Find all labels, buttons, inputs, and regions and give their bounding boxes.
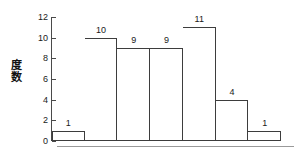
y-axis-tick-label: 12	[8, 13, 48, 22]
bar	[117, 48, 150, 141]
bar	[85, 38, 118, 141]
y-axis-tick-label: 8	[8, 54, 48, 63]
y-axis-tick-label: 2	[8, 116, 48, 125]
y-axis-tick-label: 10	[8, 34, 48, 43]
bar-cell: 10	[85, 17, 118, 141]
bar-value-label: 1	[248, 119, 281, 128]
y-axis-tick-label: 0	[8, 137, 48, 146]
histogram-chart: 度 数 024681012 110991141	[0, 0, 299, 151]
plot-area: 110991141	[52, 17, 281, 141]
bar-cell: 1	[52, 17, 85, 141]
y-axis-tick-label: 6	[8, 75, 48, 84]
bar-cell: 11	[183, 17, 216, 141]
bar-value-label: 9	[117, 36, 150, 45]
x-axis-baseline	[51, 140, 281, 141]
bar-cell: 9	[150, 17, 183, 141]
bar-value-label: 11	[183, 15, 216, 24]
bar-cell: 4	[216, 17, 249, 141]
bar	[216, 100, 249, 141]
bar	[150, 48, 183, 141]
bar	[183, 27, 216, 141]
bar-cell: 1	[248, 17, 281, 141]
bar-cell: 9	[117, 17, 150, 141]
y-axis-tick	[52, 141, 56, 142]
bar-value-label: 9	[150, 36, 183, 45]
bar-series: 110991141	[52, 17, 281, 141]
bar-value-label: 10	[85, 26, 118, 35]
y-axis-tick-label: 4	[8, 96, 48, 105]
bottom-rule	[57, 146, 294, 147]
bar-value-label: 1	[52, 119, 85, 128]
bar-value-label: 4	[216, 88, 249, 97]
